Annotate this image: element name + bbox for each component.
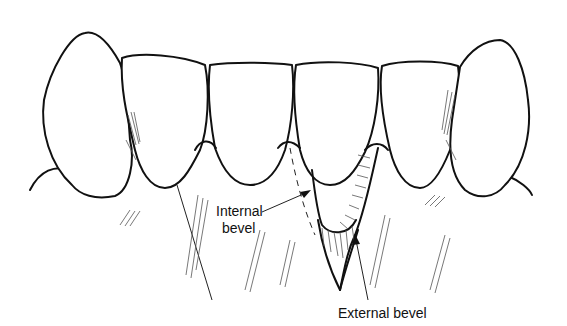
dental-bevel-diagram: Internal bevel External bevel: [0, 0, 567, 326]
internal-bevel-arrowhead: [300, 190, 311, 198]
tooth-right-lateral: [381, 62, 460, 189]
tooth-left-central: [209, 63, 293, 185]
internal-bevel-arrow: [262, 192, 308, 212]
tooth-right-canine: [450, 40, 529, 196]
root-shading: [120, 195, 450, 293]
internal-bevel-label-line2: bevel: [216, 220, 263, 237]
internal-bevel-label-line1: Internal: [216, 203, 263, 220]
tooth-left-lateral: [122, 55, 208, 188]
tooth-left-canine: [43, 33, 132, 198]
internal-bevel-label: Internal bevel: [216, 203, 263, 237]
teeth-illustration: [0, 0, 567, 326]
external-bevel-arrow: [356, 240, 368, 300]
external-bevel-label: External bevel: [338, 305, 427, 322]
left-vertical-leader-line: [177, 185, 212, 300]
